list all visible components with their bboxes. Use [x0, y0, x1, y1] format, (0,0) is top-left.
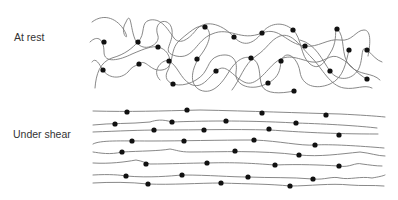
particle-dot [312, 142, 317, 147]
particle-dot [310, 176, 315, 181]
rest-chain [92, 17, 370, 56]
particle-dot [293, 120, 298, 125]
particle-dot [266, 126, 271, 131]
polymer-diagram [0, 0, 398, 200]
shear-chain [93, 182, 384, 186]
particle-dot [166, 58, 171, 63]
particle-dot [223, 118, 228, 123]
particle-dot [135, 39, 140, 44]
particle-dot [302, 43, 307, 48]
particle-dot [296, 152, 301, 157]
particle-dot [218, 180, 223, 185]
particle-dot [155, 44, 160, 49]
particle-dot [248, 55, 253, 60]
particle-dot [231, 34, 236, 39]
particle-dot [259, 110, 264, 115]
shear-chain [93, 120, 377, 128]
rest-chain [232, 35, 372, 90]
particle-dot [290, 27, 295, 32]
particle-dot [336, 132, 341, 137]
particle-dot [364, 47, 369, 52]
particle-dot [123, 173, 128, 178]
particle-dot [251, 137, 256, 142]
particle-dot [151, 127, 156, 132]
particle-dot [143, 161, 148, 166]
particle-dot [213, 68, 218, 73]
particle-dot [100, 67, 105, 72]
shear-chain [93, 149, 385, 156]
particle-dot [124, 109, 129, 114]
particle-dot [145, 181, 150, 186]
particle-dot [169, 119, 174, 124]
particle-dot [334, 26, 339, 31]
particle-dot [272, 162, 277, 167]
particle-dot [232, 148, 237, 153]
particle-dot [346, 47, 351, 52]
particle-dot [101, 39, 106, 44]
shear-chain [93, 110, 385, 117]
particle-dot [184, 107, 189, 112]
particle-dot [323, 112, 328, 117]
particle-dot [265, 80, 270, 85]
particle-dot [136, 61, 141, 66]
shear-chain [93, 175, 385, 180]
particle-dot [291, 88, 296, 93]
particle-dot [259, 30, 264, 35]
rest-chain [92, 26, 294, 93]
particle-dot [287, 183, 292, 188]
particle-dot [179, 172, 184, 177]
particle-dot [112, 121, 117, 126]
particle-dot [129, 138, 134, 143]
particle-dot [278, 58, 283, 63]
particle-dot [327, 68, 332, 73]
shear-chain [93, 140, 384, 148]
particle-dot [336, 163, 341, 168]
particle-dot [201, 127, 206, 132]
particle-dot [202, 24, 207, 29]
rest-particles [100, 24, 369, 93]
particle-dot [119, 149, 124, 154]
shear-chain [93, 130, 378, 134]
shear-chains [93, 110, 385, 186]
particle-dot [170, 81, 175, 86]
particle-dot [181, 138, 186, 143]
particle-dot [364, 76, 369, 81]
particle-dot [194, 56, 199, 61]
particle-dot [245, 174, 250, 179]
particle-dot [204, 160, 209, 165]
